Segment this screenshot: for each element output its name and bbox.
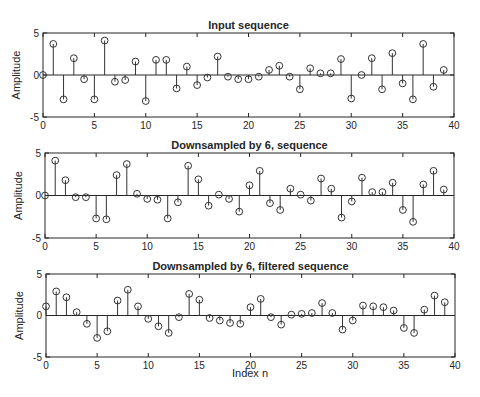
x-tick-label: 5 [92, 120, 98, 131]
stem-panel-1: 0510152025303540-505Input sequenceAmplit… [10, 19, 460, 131]
x-tick-label: 5 [93, 241, 99, 252]
x-tick-label: 0 [43, 360, 49, 371]
stem-panel-3: 0510152025303540-505Downsampled by 6, fi… [13, 260, 461, 371]
x-tick-label: 35 [397, 120, 409, 131]
x-tick-label: 35 [398, 360, 410, 371]
x-tick-label: 0 [40, 120, 46, 131]
x-tick-label: 35 [397, 241, 409, 252]
y-tick-label: 0 [35, 190, 41, 201]
x-tick-label: 40 [448, 120, 460, 131]
x-tick-label: 30 [346, 241, 358, 252]
x-tick-label: 40 [449, 360, 461, 371]
x-tick-label: 20 [244, 241, 256, 252]
x-tick-label: 30 [347, 360, 359, 371]
x-tick-label: 15 [194, 360, 206, 371]
y-tick-label: 0 [36, 310, 42, 321]
x-tick-label: 20 [243, 120, 255, 131]
x-tick-label: 0 [42, 241, 48, 252]
x-tick-label: 15 [192, 120, 204, 131]
x-tick-label: 25 [296, 360, 308, 371]
x-tick-label: 30 [346, 120, 358, 131]
x-tick-label: 5 [94, 360, 100, 371]
x-axis-label: Index n [232, 367, 268, 379]
x-tick-label: 15 [193, 241, 205, 252]
x-tick-label: 25 [294, 120, 306, 131]
x-tick-label: 40 [448, 241, 460, 252]
y-tick-label: 5 [33, 28, 39, 39]
y-axis-label: Amplitude [12, 171, 24, 220]
y-tick-label: -5 [32, 233, 41, 244]
x-tick-label: 10 [140, 120, 152, 131]
panel-title: Input sequence [208, 19, 289, 31]
y-tick-label: -5 [30, 112, 39, 123]
stem-panel-2: 0510152025303540-505Downsampled by 6, se… [12, 139, 460, 252]
y-tick-label: 5 [36, 269, 42, 280]
y-tick-label: 0 [33, 70, 39, 81]
panel-title: Downsampled by 6, filtered sequence [152, 260, 348, 272]
y-tick-label: 5 [35, 148, 41, 159]
y-tick-label: -5 [33, 352, 42, 363]
x-tick-label: 25 [295, 241, 307, 252]
x-tick-label: 10 [142, 241, 154, 252]
y-axis-label: Amplitude [13, 291, 25, 340]
figure: 0510152025303540-505Input sequenceAmplit… [0, 0, 480, 397]
y-axis-label: Amplitude [10, 51, 22, 100]
panel-title: Downsampled by 6, sequence [171, 139, 328, 151]
x-tick-label: 10 [143, 360, 155, 371]
